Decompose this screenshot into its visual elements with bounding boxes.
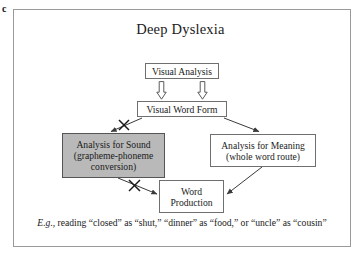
node-visual-analysis: Visual Analysis: [145, 63, 219, 79]
node-visual-word-form: Visual Word Form: [137, 101, 227, 117]
node-visual-word-form-label: Visual Word Form: [147, 104, 218, 115]
node-word-production-label: Word Production: [170, 186, 212, 208]
caption-rest: reading “closed” as “shut,” “dinner” as …: [55, 217, 326, 228]
node-analysis-for-meaning: Analysis for Meaning (whole word route): [210, 134, 316, 167]
panel-letter: c: [2, 4, 6, 14]
example-caption: E.g., reading “closed” as “shut,” “dinne…: [13, 217, 351, 229]
down-block-arrow-icon-left: [156, 81, 167, 100]
node-analysis-for-sound-label: Analysis for Sound (grapheme-phoneme con…: [74, 139, 153, 172]
caption-lead: E.g.,: [37, 217, 55, 228]
node-word-production: Word Production: [159, 180, 224, 213]
down-block-arrow-icon-right: [197, 81, 208, 100]
node-visual-analysis-label: Visual Analysis: [152, 66, 212, 77]
diagram-title: Deep Dyslexia: [0, 21, 361, 37]
node-analysis-for-meaning-label: Analysis for Meaning (whole word route): [221, 140, 305, 162]
node-analysis-for-sound: Analysis for Sound (grapheme-phoneme con…: [62, 133, 165, 178]
figure-root: c Deep Dyslexia: [0, 0, 361, 259]
